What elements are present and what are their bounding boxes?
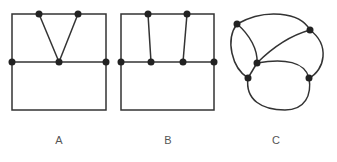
figure-label-c: C	[272, 134, 280, 146]
figure-b	[121, 14, 214, 110]
figure-label-a: A	[55, 134, 62, 146]
figure-label-b: B	[164, 134, 171, 146]
figure-b-nodes	[118, 11, 218, 66]
figure-a-nodes	[9, 11, 110, 66]
figure-c-nodes	[234, 21, 314, 82]
